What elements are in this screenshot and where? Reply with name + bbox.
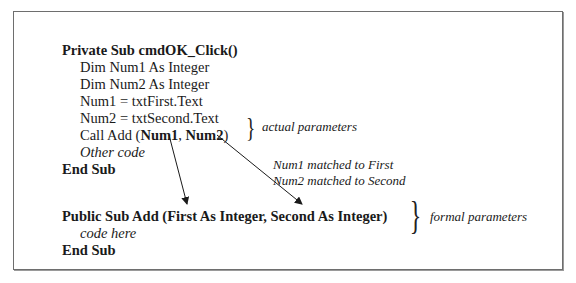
code-line: Dim Num2 As Integer xyxy=(80,76,209,93)
match-note-1: Num1 matched to First xyxy=(273,156,393,173)
call-prefix: Call Add ( xyxy=(80,127,140,143)
arg-separator: , xyxy=(178,127,185,143)
call-line: Call Add (Num1, Num2) xyxy=(80,127,228,144)
actual-arg-num1: Num1 xyxy=(140,127,178,143)
actual-parameters-label: actual parameters xyxy=(262,118,357,135)
caller-header: Private Sub cmdOK_Click() xyxy=(62,42,238,59)
code-line: Num1 = txtFirst.Text xyxy=(80,93,203,110)
actual-arg-num2: Num2 xyxy=(186,127,224,143)
other-code: Other code xyxy=(80,144,145,161)
match-note-2: Num2 matched to Second xyxy=(273,172,406,189)
callee-body: code here xyxy=(80,225,136,242)
code-line: Num2 = txtSecond.Text xyxy=(80,110,219,127)
caller-end: End Sub xyxy=(62,161,116,178)
formal-brace-icon: } xyxy=(410,195,422,237)
code-line: Dim Num1 As Integer xyxy=(80,59,209,76)
call-suffix: ) xyxy=(223,127,228,143)
actual-brace-icon: } xyxy=(246,113,255,143)
formal-parameters-label: formal parameters xyxy=(430,208,527,225)
callee-end: End Sub xyxy=(62,242,116,259)
callee-header: Public Sub Add (First As Integer, Second… xyxy=(62,208,387,225)
